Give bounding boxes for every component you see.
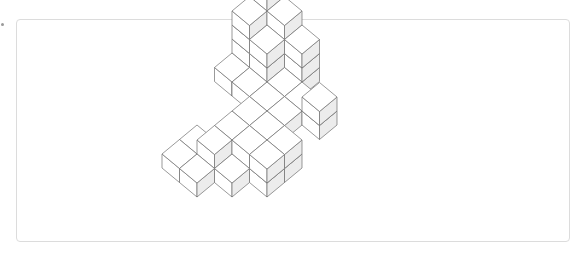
isometric-cube-figure	[0, 0, 584, 257]
cube-group	[162, 0, 337, 197]
